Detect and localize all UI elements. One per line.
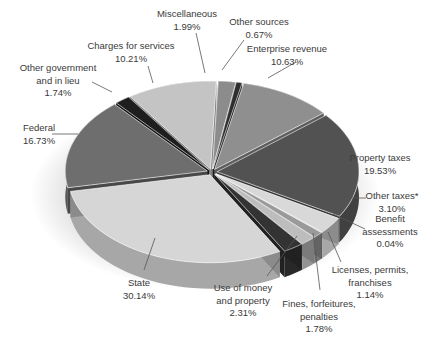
slice-percent: 10.21% bbox=[87, 53, 174, 66]
slice-label: Federal16.73% bbox=[23, 122, 55, 147]
slice-name: Licenses, permits, bbox=[332, 264, 409, 277]
slice-label: Benefitassessments0.04% bbox=[362, 213, 417, 251]
slice-label: Fines, forfeitures,penalties1.78% bbox=[282, 298, 355, 336]
slice-name: Charges for services bbox=[87, 40, 174, 53]
slice-name: Enterprise revenue bbox=[247, 43, 327, 56]
slice-label: Use of moneyand property2.31% bbox=[214, 282, 273, 320]
slice-percent: 1.78% bbox=[282, 323, 355, 336]
slice-name: Other taxes* bbox=[366, 190, 419, 203]
slice-percent: 1.74% bbox=[20, 87, 97, 100]
leader-line bbox=[196, 33, 205, 73]
slice-name: Other government bbox=[20, 62, 97, 75]
slice-name: Fines, forfeitures, bbox=[282, 298, 355, 311]
slice-name: Miscellaneous bbox=[157, 8, 217, 21]
slice-label: Other taxes*3.10% bbox=[366, 190, 419, 215]
leader-line bbox=[222, 40, 244, 70]
slice-name: franchises bbox=[332, 277, 409, 290]
slice-name: penalties bbox=[282, 311, 355, 324]
slice-label: Charges for services10.21% bbox=[87, 40, 174, 65]
slice-label: Other sources0.67% bbox=[229, 16, 289, 41]
slice-name: assessments bbox=[362, 226, 417, 239]
slice-percent: 1.99% bbox=[157, 21, 217, 34]
slice-name: Other sources bbox=[229, 16, 289, 29]
leader-line bbox=[148, 66, 153, 83]
slice-label: Licenses, permits,franchises1.14% bbox=[332, 264, 409, 302]
slice-percent: 0.04% bbox=[362, 238, 417, 251]
slice-label: Enterprise revenue10.63% bbox=[247, 43, 327, 68]
slice-name: Use of money bbox=[214, 282, 273, 295]
slice-name: Benefit bbox=[362, 213, 417, 226]
slice-name: and in lieu bbox=[20, 75, 97, 88]
slice-percent: 0.67% bbox=[229, 29, 289, 42]
slice-percent: 30.14% bbox=[123, 290, 155, 303]
slice-percent: 10.63% bbox=[247, 56, 327, 69]
slice-label: Other governmentand in lieu1.74% bbox=[20, 62, 97, 100]
slice-label: Property taxes19.53% bbox=[349, 152, 410, 177]
slice-name: Federal bbox=[23, 122, 55, 135]
slice-percent: 19.53% bbox=[349, 165, 410, 178]
slice-name: Property taxes bbox=[349, 152, 410, 165]
slice-percent: 2.31% bbox=[214, 307, 273, 320]
slice-name: and property bbox=[214, 295, 273, 308]
slice-name: State bbox=[123, 277, 155, 290]
slice-label: State30.14% bbox=[123, 277, 155, 302]
slice-label: Miscellaneous1.99% bbox=[157, 8, 217, 33]
slice-percent: 16.73% bbox=[23, 135, 55, 148]
